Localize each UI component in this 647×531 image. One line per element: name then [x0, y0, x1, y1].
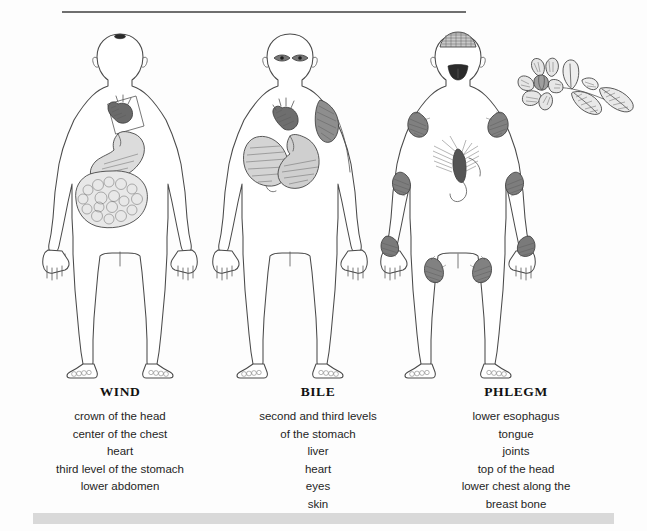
top-horizontal-rule	[62, 11, 466, 13]
phlegm-item-4: lower chest along the	[411, 478, 621, 496]
bile-caption-column: BILE second and third levels of the stom…	[213, 384, 423, 513]
bottom-gray-band	[33, 513, 614, 524]
wind-item-4: lower abdomen	[15, 478, 225, 496]
captions-row: WIND crown of the head center of the che…	[0, 384, 647, 509]
phlegm-item-3: top of the head	[411, 461, 621, 479]
wind-figure	[34, 22, 206, 380]
page-canvas: WIND crown of the head center of the che…	[0, 0, 647, 531]
bile-item-5: skin	[213, 496, 423, 514]
wind-item-1: center of the chest	[15, 426, 225, 444]
figures-row	[0, 22, 647, 380]
wind-caption-column: WIND crown of the head center of the che…	[15, 384, 225, 496]
phlegm-item-0: lower esophagus	[411, 408, 621, 426]
phlegm-heading: PHLEGM	[411, 384, 621, 400]
bile-figure	[204, 22, 376, 380]
wind-heading: WIND	[15, 384, 225, 400]
crown-marker	[115, 34, 126, 38]
flower-illustration	[508, 56, 636, 118]
bile-item-0: second and third levels	[213, 408, 423, 426]
intestines-organ	[76, 171, 148, 228]
bile-item-1: of the stomach	[213, 426, 423, 444]
phlegm-item-2: joints	[411, 443, 621, 461]
phlegm-caption-column: PHLEGM lower esophagus tongue joints top…	[411, 384, 621, 513]
wind-item-3: third level of the stomach	[15, 461, 225, 479]
crown-cap-marker	[440, 32, 476, 47]
phlegm-item-5: breast bone	[411, 496, 621, 514]
wind-item-0: crown of the head	[15, 408, 225, 426]
wind-item-2: heart	[15, 443, 225, 461]
bile-item-4: eyes	[213, 478, 423, 496]
bile-heading: BILE	[213, 384, 423, 400]
bile-item-3: heart	[213, 461, 423, 479]
phlegm-item-1: tongue	[411, 426, 621, 444]
bile-item-2: liver	[213, 443, 423, 461]
